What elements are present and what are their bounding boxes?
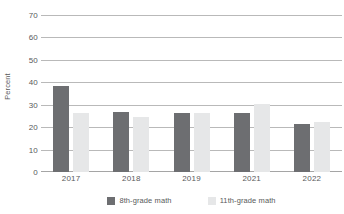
- bar-groups: [41, 15, 342, 172]
- y-tick-label: 30: [14, 100, 38, 109]
- bar-11th-2021[interactable]: [254, 104, 270, 172]
- y-tick-label: 10: [14, 145, 38, 154]
- bar-group-2022: [282, 15, 342, 172]
- chart-legend: 8th-grade math 11th-grade math: [41, 196, 342, 205]
- y-axis-tick-labels: 70 60 50 40 30 20 10 0: [10, 15, 38, 172]
- legend-item-8th-grade-math[interactable]: 8th-grade math: [107, 196, 171, 205]
- y-tick-label: 20: [14, 123, 38, 132]
- bar-chart: Percent 70 60 50 40 30 20 10 0: [0, 0, 344, 214]
- legend-swatch-icon: [208, 197, 216, 205]
- bar-group-2017: [41, 15, 101, 172]
- legend-item-11th-grade-math[interactable]: 11th-grade math: [208, 196, 276, 205]
- y-tick-label: 70: [14, 11, 38, 20]
- x-tick-label-2019: 2019: [161, 174, 221, 183]
- y-tick-label: 40: [14, 78, 38, 87]
- legend-label-8th-grade-math: 8th-grade math: [119, 196, 171, 205]
- bar-8th-2022[interactable]: [294, 124, 310, 172]
- bar-11th-2019[interactable]: [194, 113, 210, 172]
- y-tick-label: 50: [14, 55, 38, 64]
- bar-11th-2022[interactable]: [314, 122, 330, 172]
- bar-group-2019: [161, 15, 221, 172]
- x-tick-label-2022: 2022: [282, 174, 342, 183]
- bar-11th-2018[interactable]: [133, 117, 149, 172]
- legend-label-11th-grade-math: 11th-grade math: [220, 196, 276, 205]
- x-tick-label-2021: 2021: [222, 174, 282, 183]
- x-axis-tick-labels: 2017 2018 2019 2021 2022: [41, 174, 342, 183]
- legend-swatch-icon: [107, 197, 115, 205]
- y-tick-label: 0: [14, 168, 38, 177]
- bar-group-2021: [222, 15, 282, 172]
- x-tick-label-2018: 2018: [101, 174, 161, 183]
- bar-8th-2017[interactable]: [53, 86, 69, 172]
- bar-8th-2019[interactable]: [174, 113, 190, 173]
- bar-8th-2021[interactable]: [234, 113, 250, 173]
- x-tick-label-2017: 2017: [41, 174, 101, 183]
- y-tick-label: 60: [14, 33, 38, 42]
- bar-11th-2017[interactable]: [73, 113, 89, 172]
- bar-group-2018: [101, 15, 161, 172]
- bar-8th-2018[interactable]: [113, 112, 129, 172]
